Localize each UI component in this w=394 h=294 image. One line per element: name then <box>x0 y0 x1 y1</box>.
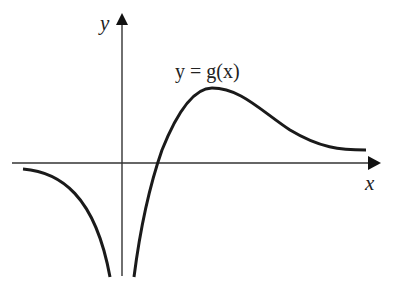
curve-label: y = g(x) <box>175 60 240 83</box>
y-axis-arrow-icon <box>116 13 128 25</box>
y-axis-label: y <box>98 11 110 35</box>
x-axis-label: x <box>364 171 375 195</box>
x-axis-arrow-icon <box>368 156 381 170</box>
curve-right-branch <box>134 88 366 277</box>
graph-canvas: y x y = g(x) <box>0 0 394 294</box>
curve-left-branch <box>23 169 110 277</box>
